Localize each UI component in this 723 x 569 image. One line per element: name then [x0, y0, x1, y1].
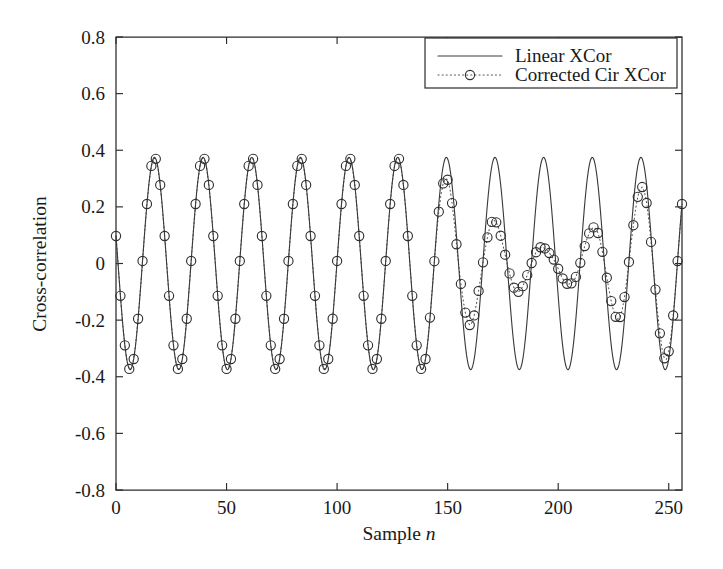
y-axis-title: Cross-correlation — [29, 196, 50, 332]
y-tick-label: -0.4 — [75, 366, 106, 387]
y-tick-label: 0.4 — [81, 140, 105, 161]
legend-label-linear: Linear XCor — [515, 45, 612, 66]
y-tick-label: 0.8 — [81, 27, 105, 48]
cross-correlation-figure: 050100150200250 -0.8-0.6-0.4-0.200.20.40… — [0, 0, 723, 569]
x-tick-label: 150 — [433, 497, 462, 518]
x-tick-label: 250 — [654, 497, 683, 518]
x-tick-label: 200 — [544, 497, 573, 518]
legend: Linear XCor Corrected Cir XCor — [425, 38, 677, 88]
y-tick-label: -0.2 — [75, 310, 105, 331]
x-tick-label: 100 — [323, 497, 352, 518]
legend-label-corrected: Corrected Cir XCor — [515, 64, 667, 85]
chart-canvas: 050100150200250 -0.8-0.6-0.4-0.200.20.40… — [0, 0, 723, 569]
x-tick-label: 50 — [217, 497, 236, 518]
y-tick-label: -0.8 — [75, 480, 105, 501]
y-tick-label: 0 — [96, 253, 106, 274]
x-axis-title: Sample n — [362, 523, 435, 544]
y-tick-label: -0.6 — [75, 423, 105, 444]
x-tick-label: 0 — [111, 497, 121, 518]
y-tick-label: 0.6 — [81, 83, 105, 104]
y-tick-label: 0.2 — [81, 196, 105, 217]
